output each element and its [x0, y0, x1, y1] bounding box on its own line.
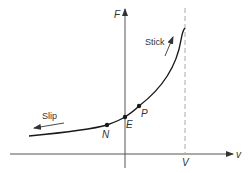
point-n	[105, 123, 109, 127]
stick-arrow-icon	[165, 37, 173, 56]
point-n-label: N	[102, 129, 110, 140]
f-axis-label: F	[114, 9, 121, 20]
point-e-label: E	[126, 119, 133, 130]
slip-label: Slip	[42, 111, 57, 121]
v-axis-label: v	[236, 149, 242, 160]
diagram-canvas: v F V N E P Stick Slip	[0, 0, 249, 173]
slip-arrow-icon	[34, 123, 64, 128]
stick-label: Stick	[145, 37, 165, 47]
v-asymptote-label: V	[182, 157, 190, 168]
point-p-label: P	[141, 108, 148, 119]
